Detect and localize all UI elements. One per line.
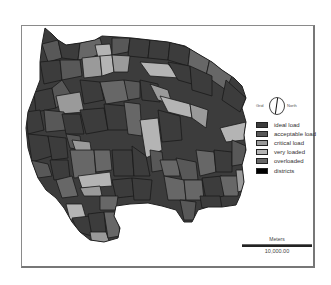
legend-swatch-icon	[256, 122, 268, 128]
compass-left-label: Grid	[256, 103, 264, 108]
legend-item-acceptable-load: acceptable load	[256, 129, 316, 138]
legend-swatch-icon	[256, 158, 268, 164]
legend-swatch-icon	[256, 168, 268, 174]
legend-item-very-loaded: very loaded	[256, 148, 316, 157]
scale-distance: 10,000.00	[240, 248, 314, 254]
legend-swatch-icon	[256, 140, 268, 146]
compass-right-label: North	[287, 103, 297, 108]
legend-item-critical-load: critical load	[256, 138, 316, 147]
scale-bar: Meters 10,000.00	[240, 236, 314, 254]
legend-item-overloaded: overloaded	[256, 157, 316, 166]
legend-item-ideal-load: ideal load	[256, 120, 316, 129]
legend-swatch-icon	[256, 131, 268, 137]
legend-swatch-icon	[256, 149, 268, 155]
north-arrow: Grid North	[256, 97, 306, 117]
legend-item-districts: districts	[256, 166, 316, 175]
map-legend: ideal load acceptable load critical load…	[256, 120, 316, 175]
scale-unit: Meters	[240, 236, 314, 242]
scale-bar-line	[242, 244, 312, 247]
